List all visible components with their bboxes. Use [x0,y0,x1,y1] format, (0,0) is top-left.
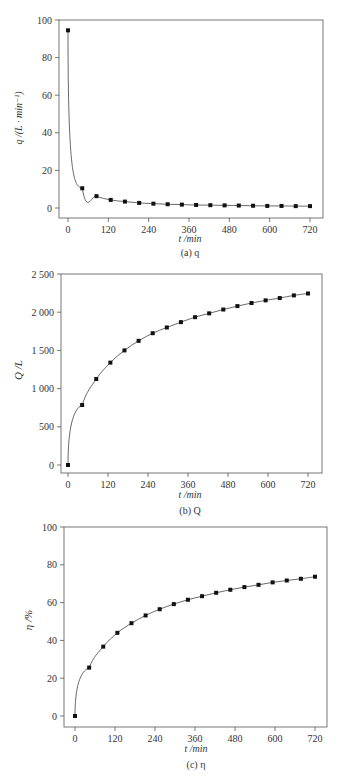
data-point-marker [308,204,312,208]
y-axis-ticks: 020406080100 [37,15,59,214]
data-point-marker [313,575,317,579]
fit-curve [68,30,310,206]
data-markers [73,575,317,718]
data-point-marker [193,315,197,319]
y-tick-label: 1 000 [32,383,55,394]
data-point-marker [80,186,84,190]
data-markers [66,291,310,467]
data-point-marker [66,463,70,467]
chart-panel-c: 020406080100 0120240360480600720 η /% t … [0,520,344,781]
data-point-marker [172,602,176,606]
x-tick-label: 720 [303,224,318,235]
data-point-marker [278,296,282,300]
x-tick-label: 600 [261,479,276,490]
data-point-marker [265,204,269,208]
data-point-marker [165,325,169,329]
y-tick-label: 80 [42,52,52,63]
x-tick-label: 240 [141,479,156,490]
y-tick-label: 0 [52,711,57,722]
data-point-marker [66,28,70,32]
data-point-marker [166,202,170,206]
y-tick-label: 40 [47,635,57,646]
chart-Q: 05001 0001 5002 0002 500 012024036048060… [0,260,344,520]
data-point-marker [237,204,241,208]
data-point-marker [299,577,303,581]
x-tick-label: 0 [66,224,71,235]
data-point-marker [242,585,246,589]
y-axis-label: Q /L [12,360,24,380]
y-axis-ticks: 020406080100 [42,522,64,722]
x-tick-label: 120 [101,224,116,235]
data-point-marker [223,203,227,207]
data-point-marker [207,311,211,315]
x-tick-label: 0 [73,733,78,744]
data-point-marker [250,301,254,305]
data-point-marker [280,204,284,208]
chart-caption: (c) η [187,759,206,771]
data-point-marker [306,291,310,295]
x-tick-label: 240 [148,733,163,744]
data-point-marker [73,714,77,718]
y-axis-ticks: 05001 0001 5002 0002 500 [32,269,62,471]
y-tick-label: 2 500 [32,269,55,280]
x-axis-ticks: 0120240360480600720 [73,727,323,744]
data-point-marker [158,607,162,611]
data-point-marker [257,583,261,587]
y-tick-label: 40 [42,127,52,138]
data-point-marker [186,598,190,602]
y-tick-label: 20 [47,673,57,684]
data-point-marker [151,202,155,206]
data-point-marker [271,580,275,584]
data-point-marker [251,204,255,208]
data-point-marker [221,308,225,312]
y-tick-label: 0 [49,460,54,471]
data-point-marker [137,339,141,343]
data-point-marker [151,331,155,335]
data-point-marker [264,298,268,302]
plot-frame [64,527,327,727]
y-axis-label: q /(L · min⁻¹) [13,91,25,145]
y-tick-label: 100 [42,522,57,533]
y-axis-label: η /% [22,610,34,630]
data-point-marker [122,348,126,352]
x-tick-label: 720 [308,733,323,744]
plot-frame [59,20,323,218]
data-point-marker [94,194,98,198]
data-point-marker [144,613,148,617]
fit-curve [75,577,315,716]
y-tick-label: 60 [47,597,57,608]
data-point-marker [115,631,119,635]
chart-caption: (b) Q [179,505,201,517]
x-tick-label: 0 [66,479,71,490]
y-tick-label: 20 [42,165,52,176]
y-tick-label: 1 500 [32,345,55,356]
data-point-marker [208,203,212,207]
data-point-marker [123,200,127,204]
data-point-marker [94,377,98,381]
x-tick-label: 120 [108,733,123,744]
data-point-marker [194,203,198,207]
x-tick-label: 600 [268,733,283,744]
data-point-marker [179,320,183,324]
x-tick-label: 120 [101,479,116,490]
x-axis-ticks: 0120240360480600720 [66,473,316,490]
data-point-marker [109,198,113,202]
data-point-marker [87,666,91,670]
data-point-marker [294,204,298,208]
x-tick-label: 480 [222,224,237,235]
data-point-marker [235,304,239,308]
chart-eta: 020406080100 0120240360480600720 η /% t … [0,520,344,781]
data-markers [66,28,312,208]
y-tick-label: 100 [37,15,52,26]
data-point-marker [285,578,289,582]
data-point-marker [200,594,204,598]
chart-panel-b: 05001 0001 5002 0002 500 012024036048060… [0,260,344,520]
data-point-marker [228,588,232,592]
chart-panel-a: 020406080100 0120240360480600720 q /(L ·… [0,0,344,260]
x-tick-label: 480 [228,733,243,744]
data-point-marker [180,203,184,207]
x-tick-label: 480 [221,479,236,490]
data-point-marker [292,293,296,297]
y-tick-label: 2 000 [32,307,55,318]
x-axis-label: t /min [178,233,201,244]
